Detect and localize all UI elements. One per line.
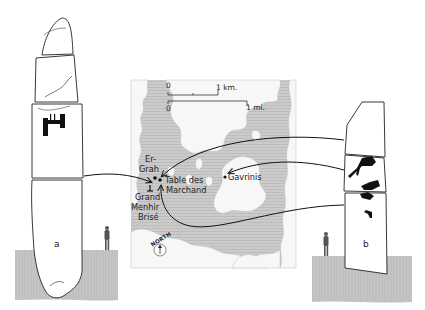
scale-mi-label: 1 mi. xyxy=(246,104,265,112)
er-grah-site-dot xyxy=(153,176,157,180)
scale-mi-zero: 0 xyxy=(166,105,171,113)
table-des-marchand-site-dot xyxy=(158,178,162,182)
label-menhir: Menhir xyxy=(131,203,159,212)
label-er-grah-2: Grah xyxy=(139,165,159,174)
label-er-grah-1: Er- xyxy=(145,155,156,164)
stone-a-label: a xyxy=(54,240,60,249)
scale-km-zero: 0 xyxy=(166,82,171,90)
diagram-canvas xyxy=(0,0,425,310)
label-gavrinis: Gavrinis xyxy=(228,173,262,182)
scale-km-label: 1 km. xyxy=(216,84,237,92)
stone-b-drawing xyxy=(312,102,412,303)
label-grand: Grand xyxy=(135,193,160,202)
label-brise: Brisé xyxy=(138,213,159,222)
stone-a-drawing xyxy=(15,18,118,301)
label-marchand: Marchand xyxy=(166,186,206,195)
human-scale-figure-icon xyxy=(105,226,110,250)
label-table-des: Table des xyxy=(165,176,203,185)
gavrinis-site-dot xyxy=(223,175,226,178)
stone-b-label: b xyxy=(363,240,369,249)
human-scale-figure-icon xyxy=(324,232,329,256)
